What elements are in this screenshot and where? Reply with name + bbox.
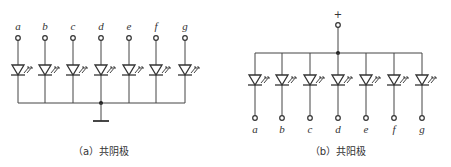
common-anode-diagram: +abcdefg [248, 9, 436, 135]
led-diode-icon [275, 75, 296, 85]
led-diode-icon [303, 75, 324, 85]
terminal-icon [71, 36, 76, 41]
terminal-icon [253, 116, 258, 121]
caption-common-cathode: （a）共阴极 [73, 145, 129, 157]
caption-common-anode: （b）共阳极 [310, 145, 366, 157]
terminal-icon [43, 36, 48, 41]
terminal-icon [336, 23, 341, 28]
segment-label-b: b [279, 123, 285, 135]
terminal-icon [280, 116, 285, 121]
terminal-icon [392, 116, 397, 121]
led-diode-icon [415, 75, 436, 85]
led-diode-icon [387, 75, 408, 85]
terminal-icon [420, 116, 425, 121]
segment-label-d: d [98, 20, 104, 32]
terminal-icon [99, 36, 104, 41]
segment-label-d: d [335, 123, 341, 135]
terminal-icon [308, 116, 313, 121]
led-seven-segment-diagrams: abcdefg +abcdefg （a）共阴极 （b）共阳极 [0, 0, 451, 167]
led-diode-icon [331, 75, 352, 85]
plus-label: + [334, 9, 342, 20]
segment-label-g: g [182, 20, 188, 32]
led-diode-icon [38, 65, 59, 75]
led-diode-icon [359, 75, 380, 85]
segment-label-a: a [252, 123, 258, 135]
led-diode-icon [178, 65, 199, 75]
terminal-icon [127, 36, 132, 41]
led-diode-icon [66, 65, 87, 75]
segment-label-g: g [419, 123, 425, 135]
terminal-icon [364, 116, 369, 121]
segment-label-e: e [364, 123, 369, 135]
segment-label-c: c [308, 123, 313, 135]
terminal-icon [183, 36, 188, 41]
led-diode-icon [248, 75, 269, 85]
segment-label-a: a [15, 20, 21, 32]
led-diode-icon [11, 65, 32, 75]
terminal-icon [154, 36, 159, 41]
segment-label-e: e [127, 20, 132, 32]
led-diode-icon [94, 65, 115, 75]
led-diode-icon [122, 65, 143, 75]
segment-label-c: c [71, 20, 76, 32]
segment-label-f: f [392, 123, 397, 135]
terminal-icon [16, 36, 21, 41]
common-cathode-diagram: abcdefg [11, 20, 199, 121]
led-diode-icon [149, 65, 170, 75]
segment-label-b: b [42, 20, 48, 32]
terminal-icon [336, 116, 341, 121]
segment-label-f: f [154, 20, 159, 32]
